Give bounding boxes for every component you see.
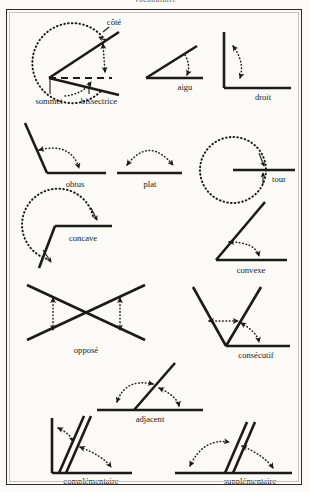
figure-complementaire: complémentaire bbox=[52, 416, 132, 485]
figure-droit: droit bbox=[224, 32, 291, 102]
label-adjacent: adjacent bbox=[136, 414, 165, 424]
figures-canvas: côté sommet bissectrice aigu droit bbox=[7, 10, 302, 485]
label-plat: plat bbox=[144, 179, 157, 189]
label-aigu: aigu bbox=[178, 82, 193, 92]
figure-plat: plat bbox=[117, 151, 182, 189]
figure-aigu: aigu bbox=[146, 46, 203, 92]
label-convexe: convexe bbox=[237, 265, 266, 275]
label-sommet: sommet bbox=[35, 96, 63, 106]
figure-adjacent: adjacent bbox=[97, 363, 203, 424]
page-header: Vocabulaire bbox=[0, 0, 310, 9]
label-concave: concave bbox=[69, 233, 97, 243]
figure-frame: côté sommet bissectrice aigu droit bbox=[6, 9, 302, 485]
label-complementaire: complémentaire bbox=[63, 476, 119, 485]
figure-supplementaire: supplémentaire bbox=[175, 422, 292, 485]
label-cote: côté bbox=[107, 17, 121, 27]
figure-angle-parts: côté sommet bissectrice bbox=[32, 17, 121, 106]
figure-page: Vocabulaire bbox=[0, 0, 310, 492]
label-obtus: obtus bbox=[66, 179, 85, 189]
label-bissectrice: bissectrice bbox=[81, 96, 117, 106]
label-tour: tour bbox=[272, 174, 286, 184]
figure-oppose: opposé bbox=[27, 285, 145, 355]
figure-concave: concave bbox=[22, 189, 112, 268]
figure-tour: tour bbox=[200, 137, 295, 203]
label-droit: droit bbox=[255, 92, 272, 102]
label-supplementaire: supplémentaire bbox=[224, 476, 277, 485]
header-title: Vocabulaire bbox=[0, 0, 310, 4]
label-oppose: opposé bbox=[74, 345, 99, 355]
figure-obtus: obtus bbox=[25, 123, 106, 189]
figure-convexe: convexe bbox=[216, 202, 287, 275]
figure-consecutif: consécutif bbox=[193, 287, 290, 360]
label-consecutif: consécutif bbox=[238, 350, 273, 360]
